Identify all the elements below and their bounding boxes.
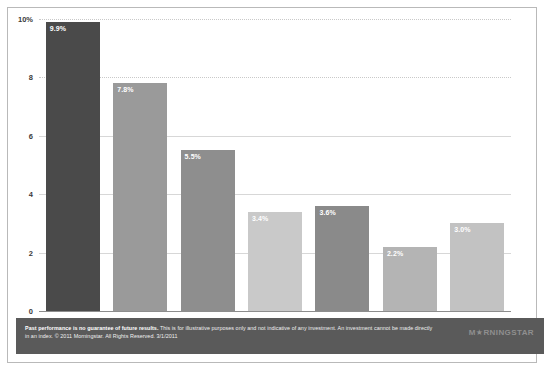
- bar-value-label: 3.6%: [319, 209, 335, 216]
- y-axis-tick-label: 0: [29, 307, 33, 316]
- bar[interactable]: 3.0%: [450, 223, 504, 311]
- footer-bold-lead: Past performance is no guarantee of futu…: [25, 325, 158, 331]
- bar-value-label: 3.4%: [252, 215, 268, 222]
- bar-slot: 9.9%: [46, 19, 100, 311]
- gridline-0: [39, 311, 511, 312]
- bar-value-label: 7.8%: [117, 86, 133, 93]
- y-axis-tick-label: 10%: [18, 15, 33, 24]
- bar-series: 9.9%7.8%5.5%3.4%3.6%2.2%3.0%: [39, 19, 511, 311]
- bar[interactable]: 5.5%: [181, 150, 235, 311]
- footer-text: Past performance is no guarantee of futu…: [25, 324, 435, 340]
- footer-disclaimer: Past performance is no guarantee of futu…: [16, 318, 544, 354]
- bar-slot: 7.8%: [113, 19, 167, 311]
- bar[interactable]: 9.9%: [46, 22, 100, 311]
- bar-value-label: 9.9%: [50, 25, 66, 32]
- plot-area: 10%86420 9.9%7.8%5.5%3.4%3.6%2.2%3.0% St…: [39, 19, 511, 311]
- chart-screenshot: 10%86420 9.9%7.8%5.5%3.4%3.6%2.2%3.0% St…: [0, 0, 544, 370]
- y-axis-tick-label: 2: [29, 248, 33, 257]
- y-axis-tick-label: 4: [29, 190, 33, 199]
- bar[interactable]: 3.4%: [248, 212, 302, 311]
- bar-slot: 3.4%: [248, 19, 302, 311]
- bar-value-label: 3.0%: [454, 226, 470, 233]
- bar-slot: 5.5%: [181, 19, 235, 311]
- bar-slot: 3.0%: [450, 19, 504, 311]
- bar-value-label: 2.2%: [387, 250, 403, 257]
- y-axis-tick-label: 6: [29, 131, 33, 140]
- bar[interactable]: 3.6%: [315, 206, 369, 311]
- bar-value-label: 5.5%: [185, 153, 201, 160]
- bar[interactable]: 2.2%: [383, 247, 437, 311]
- bar-slot: 3.6%: [315, 19, 369, 311]
- bar[interactable]: 7.8%: [113, 83, 167, 311]
- chart-figure: 10%86420 9.9%7.8%5.5%3.4%3.6%2.2%3.0% St…: [7, 7, 537, 363]
- morningstar-logo: M★RNINGSTAR: [469, 328, 534, 337]
- bar-slot: 2.2%: [383, 19, 437, 311]
- y-axis-tick-label: 8: [29, 73, 33, 82]
- logo-text: M★RNINGSTAR: [469, 328, 534, 337]
